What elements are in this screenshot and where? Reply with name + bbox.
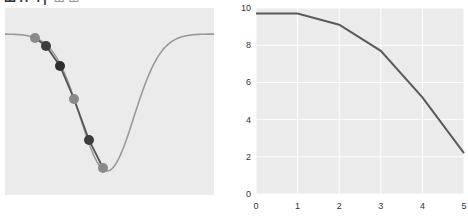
step-marker	[69, 94, 79, 104]
y-tick-label: 6	[246, 77, 251, 87]
x-axis-ticks: 012345	[253, 201, 466, 211]
right-plot-area	[256, 8, 464, 194]
step-marker	[84, 135, 94, 145]
step-marker	[98, 163, 108, 173]
x-tick-label: 0	[253, 201, 258, 211]
x-tick-label: 3	[378, 201, 383, 211]
x-tick-label: 2	[337, 201, 342, 211]
x-tick-label: 4	[420, 201, 425, 211]
y-tick-label: 4	[246, 115, 251, 125]
y-tick-label: 0	[246, 189, 251, 199]
y-tick-label: 10	[241, 3, 251, 13]
charts-canvas: 0246810 012345	[0, 0, 468, 217]
right-chart: 0246810 012345	[241, 3, 467, 211]
x-tick-label: 1	[295, 201, 300, 211]
step-marker	[30, 33, 40, 43]
left-chart	[5, 8, 214, 195]
y-tick-label: 2	[246, 152, 251, 162]
step-marker	[41, 41, 51, 51]
y-axis-ticks: 0246810	[241, 3, 251, 199]
step-marker	[55, 61, 65, 71]
x-tick-label: 5	[461, 201, 466, 211]
y-tick-label: 8	[246, 40, 251, 50]
